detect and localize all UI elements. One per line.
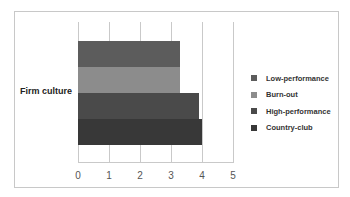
- legend-swatch-icon: [251, 75, 257, 81]
- legend-label: Low-performance: [266, 74, 329, 83]
- legend-swatch-icon: [251, 108, 257, 114]
- legend-item: Country-club: [251, 120, 331, 137]
- bar-country-club: [78, 119, 202, 145]
- x-tick-label: 4: [199, 170, 205, 181]
- legend-item: Burn-out: [251, 87, 331, 104]
- legend-label: Country-club: [266, 123, 313, 132]
- legend-label: Burn-out: [266, 90, 298, 99]
- gridline: [233, 22, 234, 163]
- x-tick-label: 2: [137, 170, 143, 181]
- x-axis-line: [78, 162, 233, 163]
- legend-label: High-performance: [266, 107, 331, 116]
- plot-area: [78, 22, 233, 163]
- legend-swatch-icon: [251, 92, 257, 98]
- x-tick-label: 0: [75, 170, 81, 181]
- legend-item: High-performance: [251, 103, 331, 120]
- category-label: Firm culture: [20, 86, 72, 96]
- x-tick-label: 3: [168, 170, 174, 181]
- gridline: [202, 22, 203, 163]
- x-tick-label: 1: [106, 170, 112, 181]
- legend: Low-performanceBurn-outHigh-performanceC…: [251, 70, 331, 136]
- bar-high-performance: [78, 93, 199, 119]
- x-tick-label: 5: [230, 170, 236, 181]
- legend-item: Low-performance: [251, 70, 331, 87]
- legend-swatch-icon: [251, 125, 257, 131]
- bar-burn-out: [78, 67, 180, 93]
- bar-low-performance: [78, 41, 180, 67]
